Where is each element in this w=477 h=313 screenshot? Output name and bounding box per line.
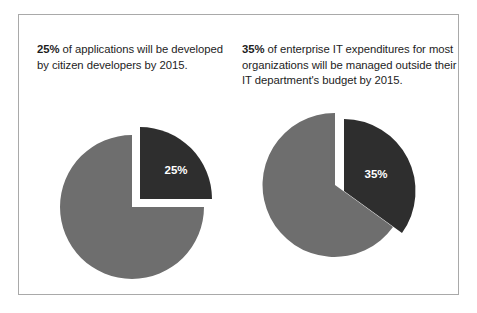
- caption-right: 35% of enterprise IT expenditures for mo…: [242, 42, 460, 89]
- pie-slice-label-35: 35%: [364, 168, 387, 180]
- figure-frame: 25% of applications will be developed by…: [18, 14, 459, 295]
- pie-chart-25-svg: 25%: [29, 103, 229, 288]
- pie-chart-35-svg: 35%: [260, 107, 445, 287]
- caption-right-lead: 35%: [242, 43, 264, 55]
- caption-left: 25% of applications will be developed by…: [37, 42, 227, 73]
- panel-citizen-developers: 25% of applications will be developed by…: [19, 15, 239, 294]
- caption-left-rest: of applications will be developed by cit…: [37, 43, 223, 71]
- pie-slice-citizen-25: [140, 127, 212, 199]
- pie-slice-label-25: 25%: [164, 164, 187, 176]
- panel-it-expenditures: 35% of enterprise IT expenditures for mo…: [224, 15, 460, 294]
- pie-chart-25: 25%: [29, 103, 229, 288]
- pie-chart-35: 35%: [260, 107, 445, 287]
- caption-left-lead: 25%: [37, 43, 59, 55]
- caption-right-rest: of enterprise IT expenditures for most o…: [242, 43, 457, 86]
